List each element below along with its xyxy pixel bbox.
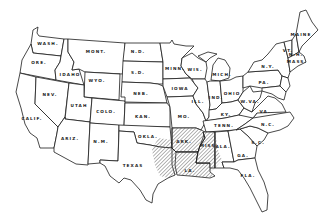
label-ill: ILL. [192, 99, 205, 104]
label-wva: W.VA. [240, 99, 259, 104]
label-ariz: ARIZ. [61, 136, 79, 141]
label-ky: KY. [221, 112, 231, 117]
label-wash: WASH. [37, 41, 58, 46]
label-maine: MAINE [291, 32, 312, 37]
label-ark: ARK. [176, 139, 192, 144]
label-neb: NEB. [133, 91, 149, 96]
label-sc: S.C. [251, 140, 265, 145]
label-mont: MONT. [86, 49, 107, 54]
label-minn: MINN. [165, 66, 185, 71]
label-kan: KAN. [135, 114, 151, 119]
label-ala: ALA. [215, 144, 230, 149]
label-nm: N.M. [93, 139, 108, 144]
label-sd: S.D. [131, 70, 145, 75]
label-pa: PA. [259, 80, 270, 85]
label-tenn: TENN. [214, 123, 234, 128]
label-ohio: OHIO [224, 91, 241, 96]
label-wyo: WYO. [89, 78, 106, 83]
label-nc: N.C. [261, 122, 275, 127]
label-calif: CALIF. [22, 116, 43, 121]
label-mich: MICH. [212, 72, 231, 77]
label-va: VA. [259, 109, 270, 114]
label-mo: MO. [178, 114, 191, 119]
state-florida [222, 158, 268, 212]
label-nev: NEV. [42, 92, 57, 97]
us-map: WASH. ORE. CALIF. IDAHO NEV. MONT. WYO. … [0, 0, 327, 223]
label-texas: TEXAS [123, 163, 144, 168]
label-okla: OKLA. [138, 134, 158, 139]
label-idaho: IDAHO [60, 72, 81, 77]
state-wyoming [84, 72, 120, 100]
label-ore: ORE. [31, 60, 47, 65]
label-fla: FLA. [241, 173, 256, 178]
state-maine [296, 10, 318, 52]
label-mass: MASS. [287, 59, 307, 64]
label-iowa: IOWA [171, 86, 188, 91]
state-montana [68, 39, 125, 74]
state-pennsylvania [243, 70, 282, 88]
label-ind: IND. [209, 95, 224, 100]
label-nh: N.H. [289, 52, 304, 57]
label-ny: N.Y. [261, 64, 274, 69]
label-ga: GA. [237, 153, 249, 158]
label-utah: UTAH [70, 103, 87, 108]
label-la: LA. [185, 168, 196, 173]
label-wis: WIS. [187, 67, 202, 72]
label-colo: COLO. [96, 109, 116, 114]
label-nd: N.D. [131, 49, 146, 54]
